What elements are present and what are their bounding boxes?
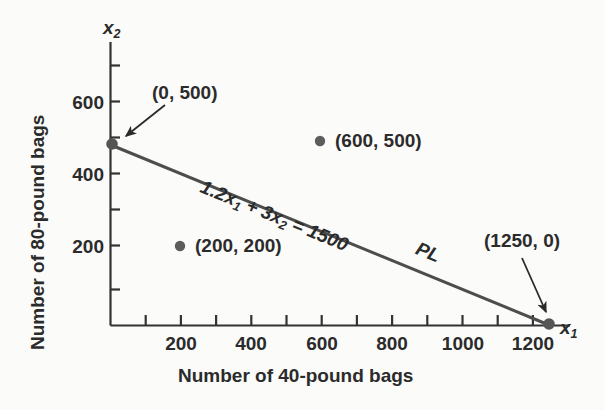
y-tick-label-600: 600	[58, 93, 104, 112]
point-marker-1250-0	[543, 318, 555, 330]
y-axis-title: Number of 80-pound bags	[28, 115, 47, 350]
x-tick-label-800: 800	[366, 334, 418, 353]
point-marker-600-500	[315, 136, 325, 146]
annotation-label-0-500: (0, 500)	[152, 83, 217, 102]
x-tick-label-1200: 1200	[502, 334, 564, 353]
scatter-label-600-500: (600, 500)	[335, 131, 422, 150]
arrow-to-1250-0	[522, 258, 546, 312]
y-tick-label-400: 400	[58, 165, 104, 184]
x-tick-label-200: 200	[155, 334, 207, 353]
y-tick-label-200: 200	[58, 237, 104, 256]
x-axis-title: Number of 40-pound bags	[178, 366, 413, 385]
annotation-label-1250-0: (1250, 0)	[484, 231, 560, 250]
arrow-to-0-500	[126, 105, 165, 136]
x-axis-ticks	[146, 315, 533, 326]
point-marker-0-500	[106, 138, 118, 150]
y-axis-variable: x2	[103, 18, 121, 40]
point-marker-200-200	[175, 241, 185, 251]
x-tick-label-600: 600	[296, 334, 348, 353]
scatter-label-200-200: (200, 200)	[195, 236, 282, 255]
x-tick-label-400: 400	[225, 334, 277, 353]
x-tick-label-1000: 1000	[432, 334, 494, 353]
y-axis-ticks	[111, 66, 121, 290]
chart-figure: x2 x1 600 400 200 200 400 600 800 1000 1…	[0, 0, 605, 410]
